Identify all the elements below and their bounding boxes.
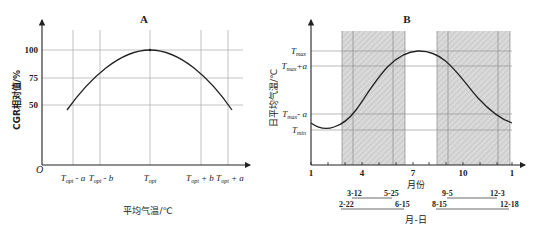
- panel-a-xtick: Topt: [144, 173, 157, 184]
- range-label: 6-15: [395, 200, 410, 209]
- panel-a-origin: O: [36, 164, 43, 175]
- panel-b-xtick: 1: [309, 168, 314, 178]
- panel-a-xlabel: 平均气温/℃: [123, 205, 172, 216]
- panel-b-xtick: 7: [411, 168, 416, 178]
- panel-a-curve: [67, 50, 232, 110]
- panel-b-ytick-tmax-plus-a: Tmax+a: [281, 61, 307, 72]
- panel-b: B: [268, 13, 525, 225]
- range-label: 5-25: [384, 189, 399, 198]
- panel-b-xlabel2: 月-日: [405, 215, 426, 225]
- panel-a-xtick: Topt - b: [89, 173, 114, 184]
- panel-b-date-ranges: 3-12 5-25 2-22 6-15 9-5 12-3 8-15 12-18: [339, 189, 519, 209]
- panel-a-ylabel: CGR相对值/%: [11, 70, 22, 130]
- panel-a-xtick: Topt + b: [186, 173, 214, 184]
- range-label: 8-15: [432, 200, 447, 209]
- range-label: 9-5: [442, 189, 453, 198]
- panel-b-ytick-tmax-minus-a: Tmax- a: [282, 109, 307, 120]
- panel-b-title: B: [403, 13, 411, 25]
- panel-a-ytick-100: 100: [25, 45, 39, 55]
- panel-b-xlabel: 月份: [407, 179, 425, 190]
- panel-a-xtick: Topt + a: [216, 173, 244, 184]
- panel-a-ytick-50: 50: [29, 100, 39, 110]
- panel-a-xticks: Topt - a Topt - b Topt Topt + b Topt + a: [61, 173, 245, 184]
- range-label: 12-3: [490, 189, 505, 198]
- panel-b-xtick: 1: [510, 168, 515, 178]
- panel-a: A 100 75 50 CGR相对值/% O Topt - a Top: [11, 13, 250, 216]
- panel-a-xtick: Topt - a: [61, 173, 86, 184]
- panel-a-ytick-75: 75: [29, 73, 39, 83]
- panel-b-ylabel: 日平均气温/℃: [268, 69, 279, 127]
- figure: A 100 75 50 CGR相对值/% O Topt - a Top: [0, 0, 535, 232]
- panel-a-title: A: [140, 13, 148, 25]
- panel-b-xticks: 1 4 7 10 1: [309, 168, 515, 178]
- range-label: 12-18: [500, 200, 519, 209]
- panel-b-xtick: 4: [360, 168, 365, 178]
- panel-b-ytick-tmax: Tmax: [291, 46, 306, 57]
- panel-a-peak-marker: [149, 49, 152, 52]
- range-label: 2-22: [339, 200, 354, 209]
- panel-b-yticks: Tmax Tmax+a Tmax- a Tmin: [281, 46, 307, 136]
- panel-b-xtick: 10: [459, 168, 469, 178]
- range-label: 3-12: [347, 189, 362, 198]
- panel-b-ytick-tmin: Tmin: [292, 125, 306, 136]
